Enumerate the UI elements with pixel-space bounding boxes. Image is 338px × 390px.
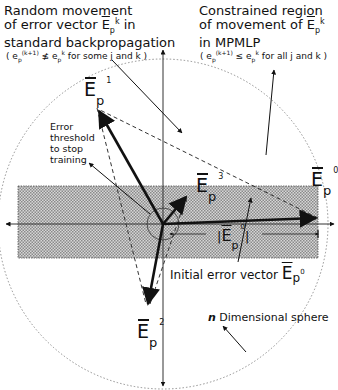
e2-sup: 2 [159, 318, 164, 327]
right-title-vector: E [307, 17, 315, 32]
right-cond-tail: for all j and k ) [259, 51, 327, 61]
constrained-region-title: Constrained region of movement of Epk in… [199, 4, 325, 50]
right-cond-sup: (k+1) [216, 49, 233, 56]
e1-sub: p [96, 93, 104, 108]
right-title-line2-text: of movement of [199, 17, 307, 32]
e3-sup: 3 [218, 172, 223, 181]
threshold-line4: training [50, 155, 95, 166]
left-cond-prefix: ( e [6, 51, 18, 61]
left-title-line3: standard backpropagation [4, 36, 175, 50]
pointer-constrained-region [266, 70, 274, 155]
e2-symbol: E [137, 320, 149, 342]
vector-label-e2: Ep2 [137, 322, 164, 345]
e1-sup: 1 [106, 76, 111, 85]
left-condition: ( ep(k+1) ≰ epk for some j and k ) [6, 50, 147, 63]
vector-label-e1: Ep1 [84, 80, 111, 103]
vector-label-e3: Ep3 [196, 176, 223, 199]
e3-sub: p [208, 189, 216, 204]
left-title-line2-text: of error vector [4, 17, 102, 32]
e0-sup: 0 [333, 166, 338, 175]
sphere-n: n [208, 311, 216, 324]
right-title-line1: Constrained region [199, 4, 325, 18]
right-cond-prefix: ( e [200, 51, 212, 61]
left-title-vector: E [102, 17, 110, 32]
random-movement-title: Random movement of error vector Epk in s… [4, 4, 175, 50]
left-title-suffix: in [120, 17, 136, 32]
constrained-region-band [18, 186, 318, 258]
magnitude-label: |Ep0| [217, 228, 249, 247]
right-title-line2: of movement of Epk [199, 18, 325, 36]
vector-label-e0: Ep0 [311, 170, 338, 193]
left-cond-sup: (k+1) [22, 49, 39, 56]
sphere-label: n Dimensional sphere [208, 312, 329, 324]
initial-vector-text: Initial error vector [170, 268, 282, 282]
e3-symbol: E [196, 174, 208, 196]
e0-sub: p [323, 183, 331, 198]
pointer-sphere [223, 326, 246, 352]
pointer-random-movement [112, 60, 182, 133]
left-title-line1: Random movement [4, 4, 175, 18]
sphere-text: Dimensional sphere [216, 311, 329, 324]
left-cond-tail: for some j and k ) [65, 51, 147, 61]
left-title-line2: of error vector Epk in [4, 18, 175, 36]
e1-symbol: E [84, 78, 96, 100]
initial-error-vector-label: Initial error vector Ep0 [170, 264, 305, 285]
error-threshold-label: Error threshold to stop training [50, 122, 95, 166]
right-cond-rel: ≤ e [233, 51, 252, 61]
left-cond-rel: ≰ e [39, 51, 58, 61]
e2-sub: p [149, 335, 157, 350]
right-condition: ( ep(k+1) ≤ epk for all j and k ) [200, 50, 327, 63]
right-title-line3: in MPMLP [199, 36, 325, 50]
e0-symbol: E [311, 168, 323, 190]
diagram-canvas: Random movement of error vector Epk in s… [0, 0, 338, 390]
